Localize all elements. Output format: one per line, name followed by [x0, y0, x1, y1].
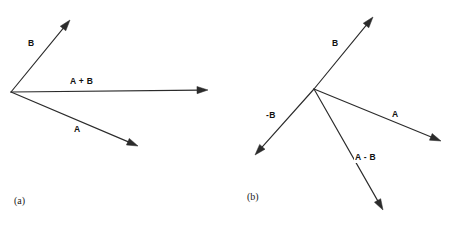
vector-arrow-b-panel-a — [11, 20, 70, 92]
panel-caption-a: (a) — [14, 196, 25, 206]
vector-label-minus-b-panel-b: -B — [265, 110, 277, 121]
vector-arrow-a-panel-b — [314, 89, 441, 141]
vector-diagram-canvas — [0, 0, 452, 226]
vector-label-a-panel-b: A — [391, 109, 399, 120]
vector-arrow-a-b-panel-b — [314, 89, 383, 210]
vector-arrow-a-panel-a — [11, 92, 138, 146]
vector-arrow-b-panel-b — [314, 17, 373, 89]
vector-label-a-minus-b-panel-b: A - B — [354, 152, 377, 163]
panel-caption-b: (b) — [247, 192, 259, 202]
vector-label-a-plus-b-panel-a: A + B — [69, 76, 94, 87]
vector-label-a-panel-a: A — [73, 124, 81, 135]
vector-label-b-panel-a: B — [27, 38, 35, 49]
vector-addition-figure: B A + B A (a) B A -B A - B (b) — [0, 0, 452, 226]
vector-arrow--b-panel-b — [255, 89, 314, 155]
vector-arrow-aplusb-panel-a — [11, 87, 208, 94]
vector-label-b-panel-b: B — [331, 38, 339, 49]
